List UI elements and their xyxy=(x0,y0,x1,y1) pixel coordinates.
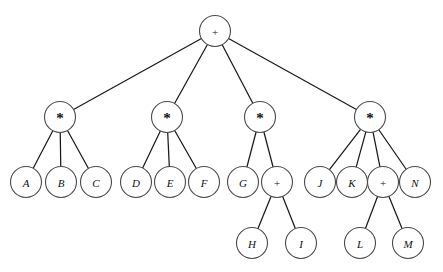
tree-edge-p1-to-I xyxy=(283,196,296,228)
tree-edge-m4-to-p2 xyxy=(373,132,380,167)
node-label-F: F xyxy=(200,177,208,189)
node-label-C: C xyxy=(92,177,100,189)
tree-node-K[interactable]: K xyxy=(337,167,368,198)
tree-edge-p2-to-L xyxy=(365,197,377,229)
tree-node-m4[interactable]: * xyxy=(355,102,386,133)
tree-node-m3[interactable]: * xyxy=(245,102,276,133)
tree-edge-m4-to-N xyxy=(379,130,406,170)
node-label-p2: + xyxy=(380,177,386,189)
tree-node-J[interactable]: J xyxy=(305,167,336,198)
tree-edge-m2-to-F xyxy=(175,130,197,168)
tree-node-C[interactable]: C xyxy=(81,167,112,198)
expression-tree-figure: +****ABCDEFG+JK+NHILM xyxy=(0,0,443,272)
node-label-E: E xyxy=(166,177,174,189)
tree-edge-root-to-m2 xyxy=(175,45,208,104)
tree-node-I[interactable]: I xyxy=(286,228,317,259)
node-label-H: H xyxy=(247,238,257,250)
node-label-N: N xyxy=(410,177,419,189)
tree-edge-root-to-m1 xyxy=(74,39,202,110)
tree-node-root[interactable]: + xyxy=(200,16,231,47)
tree-node-E[interactable]: E xyxy=(155,167,186,198)
node-label-D: D xyxy=(131,177,140,189)
expression-tree-canvas: +****ABCDEFG+JK+NHILM xyxy=(0,0,443,272)
tree-edge-p1-to-H xyxy=(258,196,271,228)
edge-layer xyxy=(33,39,406,229)
tree-node-F[interactable]: F xyxy=(189,167,220,198)
tree-node-p2[interactable]: + xyxy=(368,167,399,198)
tree-node-m1[interactable]: * xyxy=(45,102,76,133)
tree-edge-m4-to-K xyxy=(356,132,366,167)
node-label-L: L xyxy=(356,238,363,250)
node-label-root: + xyxy=(212,26,218,38)
tree-node-m2[interactable]: * xyxy=(152,102,183,133)
node-label-A: A xyxy=(22,177,30,189)
tree-edge-root-to-m4 xyxy=(229,39,357,110)
tree-node-p1[interactable]: + xyxy=(262,167,293,198)
node-label-B: B xyxy=(58,177,65,189)
tree-edge-m1-to-A xyxy=(33,131,53,169)
tree-node-H[interactable]: H xyxy=(237,228,268,259)
node-label-K: K xyxy=(347,177,356,189)
tree-node-A[interactable]: A xyxy=(11,167,42,198)
tree-edge-m3-to-p1 xyxy=(264,132,273,167)
node-label-m4: * xyxy=(366,110,374,126)
tree-edge-m2-to-D xyxy=(143,131,161,168)
tree-node-B[interactable]: B xyxy=(46,167,77,198)
tree-node-M[interactable]: M xyxy=(393,228,424,259)
node-label-m3: * xyxy=(256,110,264,126)
tree-edge-m4-to-J xyxy=(329,129,360,169)
tree-edge-m2-to-E xyxy=(168,132,170,166)
tree-node-G[interactable]: G xyxy=(228,167,259,198)
tree-edge-m3-to-G xyxy=(247,132,256,167)
tree-node-N[interactable]: N xyxy=(400,167,431,198)
tree-edge-p2-to-M xyxy=(389,196,402,228)
tree-node-D[interactable]: D xyxy=(121,167,152,198)
node-label-M: M xyxy=(402,238,413,250)
tree-edge-m1-to-C xyxy=(68,131,89,169)
node-label-G: G xyxy=(239,177,247,189)
node-label-m1: * xyxy=(56,110,64,126)
tree-edge-root-to-m3 xyxy=(222,45,253,104)
node-label-m2: * xyxy=(163,110,171,126)
node-label-p1: + xyxy=(274,177,280,189)
tree-node-L[interactable]: L xyxy=(345,228,376,259)
tree-edge-m1-to-B xyxy=(60,133,61,167)
